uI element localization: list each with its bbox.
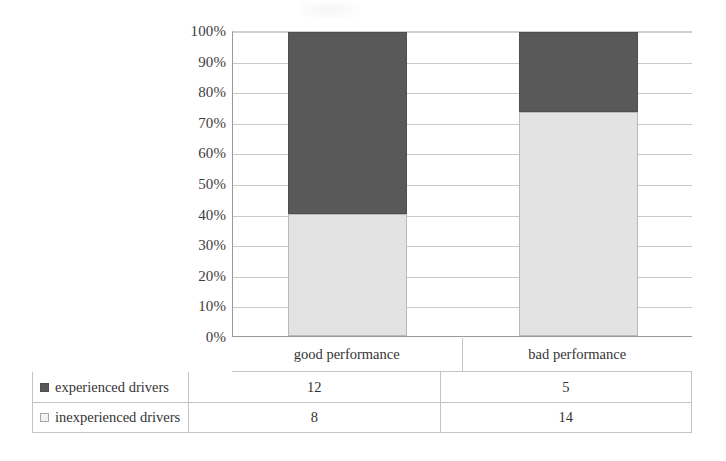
scan-artifact: [300, 2, 360, 18]
bar-segment-inexperienced[interactable]: [519, 112, 638, 336]
category-axis-row: good performance bad performance: [232, 338, 692, 372]
bar-segment-experienced[interactable]: [288, 32, 407, 214]
data-table: experienced drivers 12 5 inexperienced d…: [32, 372, 692, 433]
bars-layer: [233, 32, 692, 336]
legend-label: experienced drivers: [55, 380, 169, 395]
y-axis-tick-label: 0%: [168, 330, 226, 345]
plot-area: [232, 31, 692, 337]
table-cell-value: 12: [189, 372, 440, 402]
bar-segment-experienced[interactable]: [519, 32, 638, 112]
y-axis-tick-label: 40%: [168, 207, 226, 222]
y-axis-tick-label: 50%: [168, 177, 226, 192]
y-axis-tick-label: 70%: [168, 115, 226, 130]
y-axis-tick-label: 60%: [168, 146, 226, 161]
y-axis-tick-label: 30%: [168, 238, 226, 253]
legend-item-experienced[interactable]: experienced drivers: [33, 372, 189, 402]
category-label-good-performance: good performance: [232, 338, 462, 371]
y-axis-tick-label: 20%: [168, 268, 226, 283]
bar-column-bad-performance[interactable]: [519, 32, 638, 336]
y-axis-tick-label: 10%: [168, 299, 226, 314]
legend-item-inexperienced[interactable]: inexperienced drivers: [33, 403, 189, 432]
y-axis: 100% 90% 80% 70% 60% 50% 40% 30% 20% 10%…: [168, 31, 226, 337]
y-axis-tick-label: 90%: [168, 54, 226, 69]
stacked-bar-chart-figure: 100% 90% 80% 70% 60% 50% 40% 30% 20% 10%…: [0, 0, 726, 461]
table-cell-value: 8: [189, 403, 440, 432]
legend-swatch-filled-square-icon: [40, 383, 49, 392]
table-row: experienced drivers 12 5: [33, 372, 691, 402]
y-axis-tick-label: 80%: [168, 85, 226, 100]
bar-segment-inexperienced[interactable]: [288, 214, 407, 336]
y-axis-tick-label: 100%: [168, 24, 226, 39]
table-cell-value: 5: [440, 372, 692, 402]
legend-label: inexperienced drivers: [55, 410, 180, 425]
legend-swatch-outlined-square-icon: [40, 413, 49, 422]
table-cell-value: 14: [440, 403, 692, 432]
table-row: inexperienced drivers 8 14: [33, 402, 691, 432]
bar-column-good-performance[interactable]: [288, 32, 407, 336]
category-label-bad-performance: bad performance: [462, 338, 693, 371]
